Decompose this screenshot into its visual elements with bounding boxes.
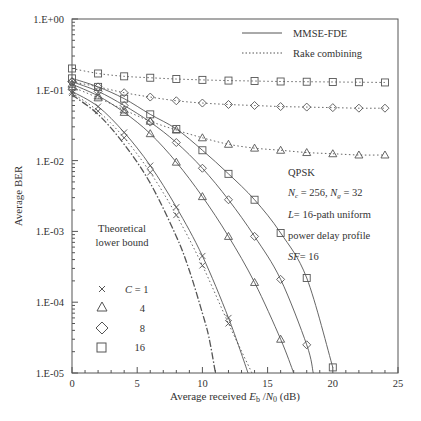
diamond-marker: [329, 104, 337, 112]
ann-pdp: power delay profile: [288, 230, 371, 241]
y-tick-label: 1.E-03: [36, 226, 64, 237]
y-tick-label: 1.E-01: [36, 85, 64, 96]
marker-legend: C = 1 4 8 16: [96, 284, 148, 353]
series-line: [72, 82, 385, 108]
marker-legend-8: 8: [140, 323, 145, 334]
triangle-marker: [251, 144, 259, 151]
x-axis-label: Average received Eb /N0 (dB): [170, 390, 300, 404]
y-tick-label: 1.E-02: [36, 156, 64, 167]
x-tick-label: 25: [393, 378, 404, 389]
parameter-annotation: QPSK Nc = 256, Ng = 32 L= 16-path unifor…: [287, 167, 371, 262]
y-tick-label: 1.E-05: [36, 368, 64, 379]
x-tick-label: 15: [262, 378, 273, 389]
marker-legend-c1: C = 1: [125, 284, 148, 295]
diamond-marker-icon: [96, 322, 108, 334]
square-marker: [329, 78, 336, 85]
ann-sf: SF= 16: [288, 251, 319, 262]
marker-legend-4: 4: [140, 303, 146, 314]
triangle-marker: [303, 149, 311, 156]
y-tick-label: 1.E+00: [33, 14, 64, 25]
diamond-marker: [381, 104, 389, 112]
x-tick-label: 0: [69, 378, 74, 389]
legend-dotted-label: Rake combining: [293, 48, 363, 59]
x-tick-label: 10: [197, 378, 208, 389]
ann-paths: L= 16-path uniform: [287, 209, 371, 220]
x-tick-label: 20: [328, 378, 339, 389]
theory-label-line1: Theoretical: [98, 223, 146, 234]
triangle-marker-icon: [97, 302, 107, 311]
triangle-marker: [381, 151, 389, 158]
ann-qpsk: QPSK: [288, 167, 315, 178]
y-axis-label: Average BER: [12, 165, 24, 226]
y-tick-label: 1.E-04: [36, 297, 65, 308]
square-marker: [381, 79, 388, 86]
ann-nc-ng: Nc = 256, Ng = 32: [287, 187, 362, 200]
series-line: [72, 68, 385, 82]
series-line: [72, 87, 385, 155]
x-marker-icon: [99, 286, 105, 292]
theory-label-line2: lower bound: [96, 237, 150, 248]
legend-solid-label: MMSE-FDE: [293, 28, 347, 39]
marker-legend-16: 16: [135, 342, 146, 353]
legend: MMSE-FDE Rake combining: [242, 28, 363, 59]
triangle-marker: [355, 151, 363, 158]
plot-axes: 1.E+001.E-011.E-021.E-031.E-041.E-050510…: [33, 14, 403, 389]
x-tick-label: 5: [135, 378, 140, 389]
square-marker-icon: [97, 343, 106, 352]
ber-chart: 1.E+001.E-011.E-021.E-031.E-041.E-050510…: [0, 0, 421, 421]
